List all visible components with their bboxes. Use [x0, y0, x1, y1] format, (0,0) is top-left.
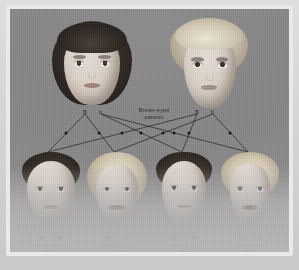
- link-dot: [121, 132, 124, 135]
- child3-caption: Brown-eyed child: [154, 243, 214, 252]
- child1-caption-line2: child: [20, 249, 82, 252]
- link-dots: [65, 132, 232, 135]
- child3-caption-line2: child: [154, 249, 214, 252]
- child4-eye-right: [256, 186, 264, 192]
- child4-allele-1: b: [238, 236, 244, 241]
- link-dot: [188, 132, 191, 135]
- child1-mouth: [44, 205, 59, 209]
- child2-nose: [114, 195, 120, 201]
- parent-face-mother: [50, 19, 134, 111]
- child2-allele-1: B: [105, 236, 111, 241]
- figure-frame: B b B b Brown-eyed parents: [0, 0, 299, 270]
- child1-head: [20, 152, 82, 224]
- child2-caption: Brown-eyed child: [86, 243, 148, 252]
- father-head: [167, 17, 251, 112]
- link-dot: [162, 132, 165, 135]
- child4-head: [220, 152, 280, 224]
- father-brow-left: [191, 57, 204, 62]
- mother-mouth: [84, 83, 101, 88]
- mother-eye-right: [100, 60, 111, 66]
- child4-allele-row: b b: [220, 236, 280, 241]
- child4-mouth: [242, 205, 259, 210]
- parents-caption: Brown-eyed parents: [123, 107, 185, 120]
- child3-allele-1: b: [172, 236, 178, 241]
- child-face-1: [20, 152, 82, 224]
- child-face-2: [86, 152, 148, 224]
- mother-allele-2: b: [99, 110, 102, 115]
- child1-allele-2: B: [58, 236, 64, 241]
- child2-eye-left: [103, 187, 111, 193]
- child-face-3: [154, 152, 214, 224]
- mother-allele-1: B: [83, 110, 87, 115]
- father-allele-1: B: [195, 110, 199, 115]
- child2-mouth: [108, 205, 125, 210]
- child4-allele-2: b: [257, 236, 263, 241]
- child3-eye-right: [190, 185, 198, 191]
- parent-face-father: [167, 17, 251, 112]
- father-mouth: [201, 85, 216, 89]
- link-dot: [98, 132, 101, 135]
- child4-caption: Blue-eyed child: [220, 243, 280, 252]
- child4-caption-line2: child: [220, 249, 280, 252]
- child3-allele-row: b B: [154, 236, 214, 241]
- mother-nose: [88, 71, 96, 78]
- father-allele-2: b: [211, 110, 214, 115]
- link-dot: [173, 132, 176, 135]
- parents-caption-line2: parents: [123, 114, 185, 121]
- link-dot: [229, 132, 232, 135]
- father-hair-fringe: [175, 19, 242, 49]
- child2-allele-2: b: [124, 236, 130, 241]
- child2-allele-row: B b: [86, 236, 148, 241]
- child-face-4: [220, 152, 280, 224]
- child4-eye-left: [236, 186, 244, 192]
- child1-eye-right: [57, 186, 65, 192]
- child3-head: [154, 152, 214, 224]
- child3-face-skin: [162, 161, 205, 223]
- child4-nose: [247, 195, 253, 201]
- child1-allele-row: B B: [20, 236, 82, 241]
- child1-allele-1: B: [39, 236, 45, 241]
- link-dot: [65, 132, 68, 135]
- child2-caption-line2: child: [86, 249, 148, 252]
- link-mother-B-child2: [85, 114, 114, 152]
- child2-face-skin: [96, 164, 138, 222]
- parents-caption-line1: Brown-eyed: [123, 107, 185, 114]
- link-dot: [140, 132, 143, 135]
- child1-eye-left: [36, 186, 44, 192]
- child2-head: [86, 152, 148, 224]
- child4-face-skin: [230, 163, 271, 222]
- mother-hair-fringe: [57, 22, 128, 53]
- child1-caption: Brown-eyed child: [20, 243, 82, 252]
- child3-mouth: [177, 205, 190, 209]
- child3-eye-left: [170, 185, 178, 191]
- father-nose: [206, 73, 214, 81]
- mother-eye-left: [74, 60, 85, 66]
- child1-face-skin: [27, 161, 74, 221]
- child3-allele-2: B: [191, 236, 197, 241]
- link-mother-B-child1: [48, 114, 85, 152]
- father-brow-right: [216, 57, 229, 62]
- mother-head: [50, 19, 134, 111]
- link-father-b-child4: [213, 114, 248, 152]
- inheritance-diagram-photo-panel: B b B b Brown-eyed parents: [10, 9, 289, 252]
